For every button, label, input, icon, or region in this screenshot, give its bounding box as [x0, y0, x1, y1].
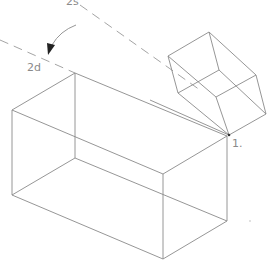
curved-arrow-icon — [47, 25, 76, 55]
label-point-1: 1. — [232, 137, 243, 150]
diagram-canvas: 2s 2d 1. — [0, 0, 272, 261]
label-2s: 2s — [66, 0, 79, 8]
connector-line — [150, 100, 229, 135]
large-block — [12, 73, 227, 259]
stray-dot — [249, 220, 251, 222]
label-2d: 2d — [27, 61, 41, 74]
rotated-cube — [168, 32, 266, 135]
point-1-marker — [228, 134, 231, 137]
drawing: 2s 2d 1. — [0, 0, 272, 261]
